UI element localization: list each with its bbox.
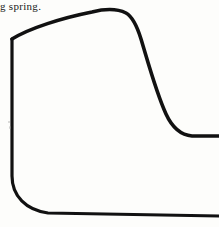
- scan-speck-left: [8, 121, 10, 123]
- scan-speck-mid: [9, 126, 11, 129]
- left-edge-and-baseline-path: [12, 39, 219, 216]
- upper-curve-path: [12, 10, 219, 137]
- figure-strokes: [12, 10, 219, 217]
- spring-profile-figure: [0, 0, 219, 227]
- scanned-page: g spring.: [0, 0, 219, 227]
